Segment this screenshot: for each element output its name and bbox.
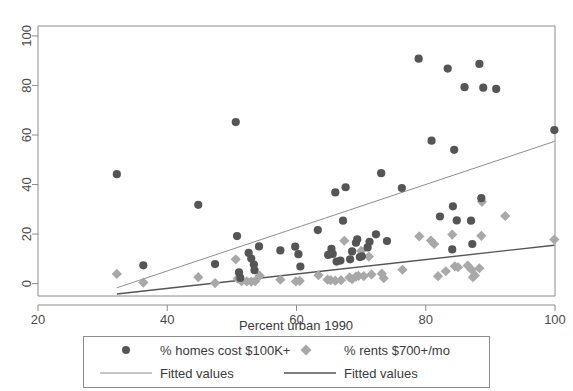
legend-marker-homes-circle-icon bbox=[122, 346, 130, 354]
data-point-circle bbox=[211, 260, 219, 268]
data-point-circle bbox=[444, 65, 452, 73]
data-point-circle bbox=[339, 217, 347, 225]
y-tick-label: 0 bbox=[20, 280, 35, 287]
data-point-circle bbox=[331, 188, 339, 196]
data-point-circle bbox=[346, 255, 354, 263]
data-point-circle bbox=[460, 83, 468, 91]
scatter-chart-figure: 020406080100 20406080100 Percent urban 1… bbox=[0, 0, 573, 391]
data-point-circle bbox=[353, 235, 361, 243]
x-tick-label: 100 bbox=[544, 312, 566, 327]
x-tick-label: 80 bbox=[419, 312, 433, 327]
data-point-circle bbox=[383, 237, 391, 245]
data-point-circle bbox=[372, 230, 380, 238]
data-point-circle bbox=[329, 250, 337, 258]
data-point-circle bbox=[296, 262, 304, 270]
data-point-circle bbox=[348, 247, 356, 255]
y-tick-label: 20 bbox=[20, 227, 35, 241]
chart-canvas: 020406080100 20406080100 Percent urban 1… bbox=[0, 0, 573, 391]
data-point-circle bbox=[475, 60, 483, 68]
data-point-circle bbox=[336, 256, 344, 264]
data-point-circle bbox=[450, 146, 458, 154]
legend-label-fitted-homes: Fitted values bbox=[160, 366, 234, 381]
data-point-circle bbox=[194, 201, 202, 209]
data-point-circle bbox=[468, 240, 476, 248]
legend-label-homes: % homes cost $100K+ bbox=[160, 343, 290, 358]
data-point-circle bbox=[415, 55, 423, 63]
data-point-circle bbox=[250, 266, 258, 274]
y-tick-label: 40 bbox=[20, 177, 35, 191]
data-point-circle bbox=[291, 243, 299, 251]
data-point-circle bbox=[398, 184, 406, 192]
data-point-circle bbox=[255, 242, 263, 250]
legend-label-fitted-rents: Fitted values bbox=[344, 366, 418, 381]
data-point-circle bbox=[550, 126, 558, 134]
data-point-circle bbox=[358, 252, 366, 260]
y-tick-label: 60 bbox=[20, 128, 35, 142]
data-point-circle bbox=[377, 169, 385, 177]
data-point-circle bbox=[113, 170, 121, 178]
data-point-circle bbox=[276, 246, 284, 254]
data-point-circle bbox=[436, 212, 444, 220]
data-point-circle bbox=[236, 274, 244, 282]
data-point-circle bbox=[342, 183, 350, 191]
x-axis-title: Percent urban 1990 bbox=[239, 318, 353, 333]
data-point-circle bbox=[448, 245, 456, 253]
x-tick-label: 40 bbox=[160, 312, 174, 327]
data-point-circle bbox=[453, 216, 461, 224]
x-tick-label: 20 bbox=[31, 312, 45, 327]
data-point-circle bbox=[427, 137, 435, 145]
data-point-circle bbox=[294, 250, 302, 258]
data-point-circle bbox=[314, 226, 322, 234]
data-point-circle bbox=[139, 261, 147, 269]
data-point-circle bbox=[467, 217, 475, 225]
data-point-circle bbox=[233, 232, 241, 240]
legend-label-rents: % rents $700+/mo bbox=[344, 343, 450, 358]
data-point-circle bbox=[232, 118, 240, 126]
data-point-circle bbox=[477, 194, 485, 202]
data-point-circle bbox=[479, 84, 487, 92]
y-tick-label: 80 bbox=[20, 78, 35, 92]
y-tick-label: 100 bbox=[20, 25, 35, 47]
data-point-circle bbox=[449, 202, 457, 210]
data-point-circle bbox=[365, 238, 373, 246]
data-point-circle bbox=[492, 85, 500, 93]
